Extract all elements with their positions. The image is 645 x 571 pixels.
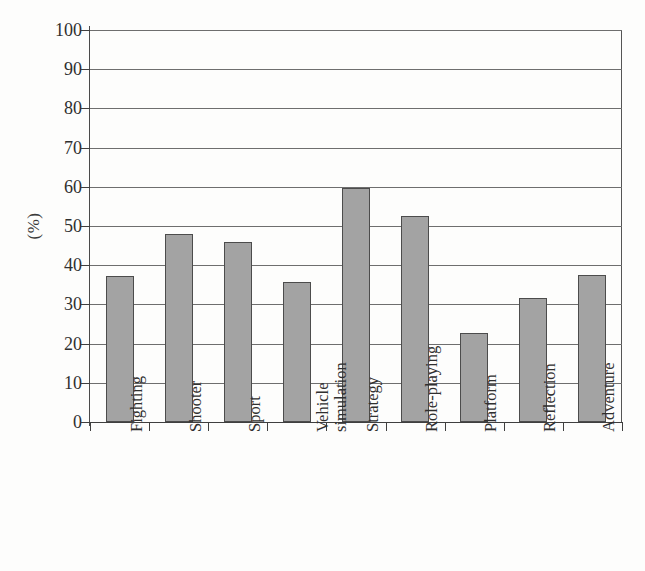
- y-tick-label: 20: [42, 335, 82, 353]
- x-tick-mark: [504, 422, 505, 431]
- bar: [283, 282, 311, 422]
- y-tick-label: 80: [42, 99, 82, 117]
- x-tick-mark: [208, 422, 209, 431]
- gridline: [90, 148, 622, 149]
- x-tick-mark: [386, 422, 387, 431]
- y-tick-mark: [81, 226, 90, 227]
- y-tick-mark: [81, 108, 90, 109]
- y-tick-label: 50: [42, 217, 82, 235]
- y-tick-label: 60: [42, 178, 82, 196]
- x-tick-label: Platform: [482, 302, 500, 432]
- x-tick-mark: [149, 422, 150, 431]
- x-tick-label: Fighting: [128, 302, 146, 432]
- x-tick-mark: [267, 422, 268, 431]
- x-tick-mark: [90, 422, 91, 431]
- x-tick-label: Strategy: [364, 302, 382, 432]
- x-tick-label: Shooter: [187, 302, 205, 432]
- y-tick-label: 40: [42, 256, 82, 274]
- y-tick-label: 100: [42, 21, 82, 39]
- x-tick-mark: [622, 422, 623, 431]
- y-tick-mark: [81, 187, 90, 188]
- y-tick-mark: [81, 383, 90, 384]
- y-tick-mark: [81, 265, 90, 266]
- y-tick-label: 70: [42, 139, 82, 157]
- y-tick-label: 90: [42, 60, 82, 78]
- y-tick-label: 30: [42, 295, 82, 313]
- y-tick-mark: [81, 30, 90, 31]
- bar-chart-figure: (%) 1009080706050403020100 FightingShoot…: [0, 0, 645, 571]
- x-tick-mark: [445, 422, 446, 431]
- x-tick-label: Role-playing: [423, 302, 441, 432]
- gridline: [90, 108, 622, 109]
- x-tick-label: Sport: [246, 302, 264, 432]
- x-tick-mark: [563, 422, 564, 431]
- x-tick-label: Adventure: [600, 302, 618, 432]
- y-axis-tick-labels: 1009080706050403020100: [38, 0, 82, 571]
- y-tick-mark: [81, 344, 90, 345]
- y-tick-mark: [81, 69, 90, 70]
- y-tick-mark: [81, 304, 90, 305]
- y-tick-mark: [81, 148, 90, 149]
- gridline: [90, 69, 622, 70]
- gridline: [90, 30, 622, 31]
- x-tick-label: Vehicle simulation: [314, 302, 350, 432]
- y-tick-mark: [81, 422, 90, 423]
- x-tick-label: Reflection: [541, 302, 559, 432]
- y-tick-label: 0: [42, 413, 82, 431]
- y-tick-label: 10: [42, 374, 82, 392]
